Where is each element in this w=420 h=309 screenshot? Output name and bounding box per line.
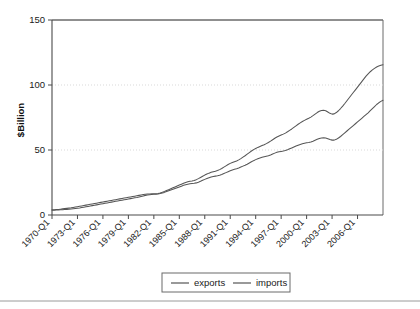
chart-background bbox=[0, 0, 420, 309]
y-tick-label: 150 bbox=[29, 14, 45, 25]
y-axis-label: $Billion bbox=[15, 103, 26, 138]
chart-figure: 050100150 1970-Q11973-Q11976-Q11979-Q119… bbox=[0, 0, 420, 309]
y-tick-label: 100 bbox=[29, 79, 45, 90]
chart-legend: exports imports bbox=[162, 273, 290, 292]
line-chart: 050100150 1970-Q11973-Q11976-Q11979-Q119… bbox=[0, 0, 420, 309]
y-tick-label: 50 bbox=[34, 144, 45, 155]
legend-label-imports: imports bbox=[256, 277, 287, 288]
legend-label-exports: exports bbox=[194, 277, 225, 288]
